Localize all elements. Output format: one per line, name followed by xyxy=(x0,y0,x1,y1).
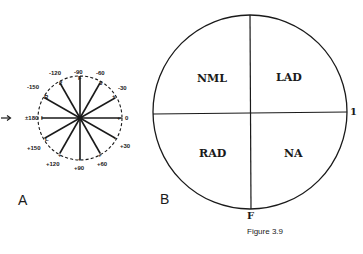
quadrant-label-na: NA xyxy=(284,148,303,159)
quadrant-label-lad: LAD xyxy=(276,72,302,83)
degree-label-plus-120: +120 xyxy=(46,161,60,167)
degree-label-minus-120: -120 xyxy=(49,70,61,76)
lead-label-3: 3 xyxy=(99,80,102,86)
axis-label-lead-f: F xyxy=(247,211,254,221)
degree-label-plus-30: +30 xyxy=(120,143,130,149)
pole-mark-plus: + xyxy=(78,156,82,162)
vertical-axis-line xyxy=(250,15,251,209)
pole-mark-plus: + xyxy=(117,115,121,121)
degree-label-0: 0 xyxy=(125,115,128,121)
lead-label-l: L xyxy=(45,136,49,142)
degree-label-plus-90: +90 xyxy=(74,165,84,171)
figure-caption: Figure 3.9 xyxy=(247,228,283,236)
lead-label-2: 2 xyxy=(59,80,62,86)
quadrant-label-nml: NML xyxy=(197,73,227,84)
hexaxial-center-dot xyxy=(77,115,82,120)
arrow-right-icon xyxy=(1,116,11,121)
panel-label-a: A xyxy=(18,193,27,207)
pole-mark-plus: + xyxy=(58,152,62,158)
quadrant-label-rad: RAD xyxy=(199,148,226,159)
pole-mark-plus: + xyxy=(98,152,102,158)
degree-label-plus-minus-180: ±180 xyxy=(25,115,38,121)
lead-label-f: F xyxy=(78,75,82,81)
degree-label-minus-150: -150 xyxy=(27,84,39,90)
figure-graphics xyxy=(0,0,363,254)
degree-label-plus-150: +150 xyxy=(27,145,41,151)
pole-mark-plus: + xyxy=(112,93,116,99)
lead-label-i: I xyxy=(41,115,43,121)
panel-label-b: B xyxy=(160,192,169,206)
degree-label-minus-30: -30 xyxy=(118,85,127,91)
pole-mark-minus: − xyxy=(114,136,118,142)
degree-label-minus-60: -60 xyxy=(96,70,105,76)
axis-label-lead-1: 1 xyxy=(350,107,357,117)
degree-label-plus-60: +60 xyxy=(97,161,107,167)
lead-label-r: R xyxy=(44,94,48,100)
